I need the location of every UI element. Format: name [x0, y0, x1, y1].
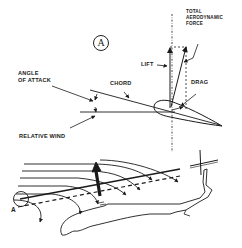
label-chord: CHORD [110, 81, 132, 87]
helicopter-diagram [14, 150, 219, 235]
label-drag: DRAG [191, 80, 208, 86]
label-angle: ANGLE [18, 71, 39, 77]
panel-label-a: A [93, 35, 109, 51]
label-lift: LIFT [141, 62, 154, 68]
diagram-drawing [0, 0, 242, 248]
label-detail-a: A [11, 207, 16, 214]
label-force: FORCE [186, 22, 203, 27]
label-relative-wind: RELATIVE WIND [19, 134, 65, 140]
aerodynamics-diagram: A TOTAL AERODYNAMIC FORCE LIFT DRAG CHOR… [0, 0, 242, 248]
label-of-attack: OF ATTACK [18, 78, 51, 84]
